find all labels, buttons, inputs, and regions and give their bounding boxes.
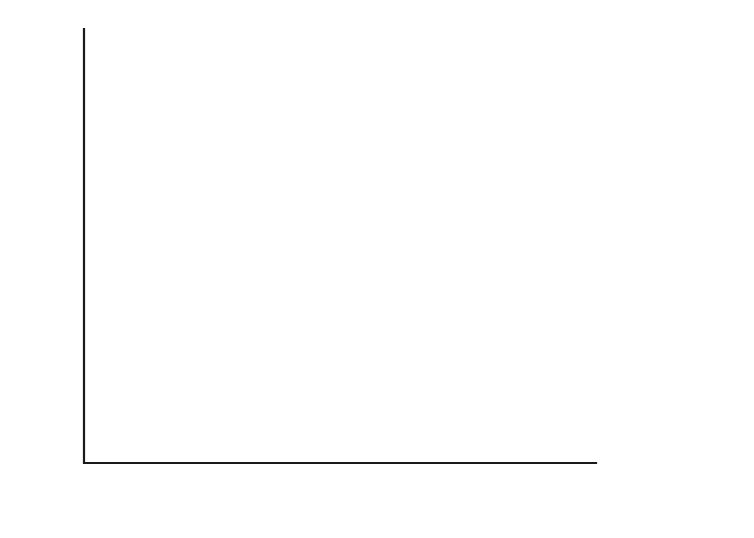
chart-canvas — [0, 0, 754, 538]
axes — [84, 29, 596, 463]
chart-figure — [0, 0, 754, 538]
axis-lines — [84, 29, 596, 463]
